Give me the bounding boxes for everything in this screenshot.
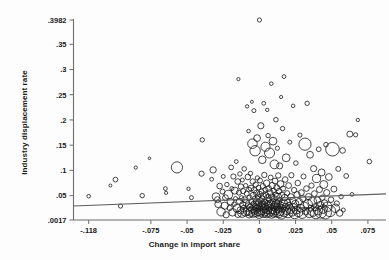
scatter-point [325, 174, 332, 181]
scatter-point [215, 201, 222, 208]
scatter-point [187, 187, 190, 190]
x-tick-label: -.118 [80, 226, 97, 235]
x-tick-label: -.05 [181, 226, 194, 235]
scatter-point [134, 166, 137, 169]
scatter-point [285, 191, 290, 196]
y-tick-label: .2 [60, 116, 66, 125]
scatter-point [248, 139, 258, 149]
scatter-point [258, 123, 264, 129]
scatter-point [316, 147, 321, 152]
scatter-point [328, 197, 334, 203]
scatter-point [354, 133, 358, 137]
y-axis-title: Industry displacement rate [20, 43, 29, 203]
scatter-point [336, 210, 343, 217]
scatter-point [200, 138, 204, 142]
x-tick-label: -.025 [215, 226, 232, 235]
scatter-point [305, 101, 309, 105]
scatter-point [282, 75, 286, 79]
scatter-point [291, 104, 295, 108]
scatter-point [238, 172, 242, 176]
scatter-point [286, 183, 292, 189]
y-tick-label: .25 [56, 91, 66, 100]
scatter-point [309, 183, 314, 188]
scatter-point [277, 163, 283, 169]
scatter-point [231, 174, 236, 179]
scatter-point [189, 196, 193, 200]
scatter-point [262, 101, 266, 105]
scatter-point [320, 181, 328, 189]
scatter-point [356, 118, 359, 121]
scatter-point [257, 178, 262, 183]
x-tick-label: .05 [327, 226, 337, 235]
x-tick-label: .025 [288, 226, 303, 235]
scatter-point [344, 174, 349, 179]
y-tick-label: .05 [56, 191, 66, 200]
scatter-point [229, 165, 234, 170]
scatter-point [340, 148, 346, 154]
scatter-point [247, 129, 251, 133]
scatter-point [282, 177, 288, 183]
scatter-point [311, 166, 317, 172]
scatter-point [217, 183, 223, 189]
scatter-point [301, 174, 306, 179]
scatter-point [210, 167, 216, 173]
y-tick-label: .3982 [48, 16, 67, 25]
scatter-point [294, 161, 299, 166]
scatter-point [269, 82, 273, 86]
scatter-point [240, 178, 244, 182]
scatter-points-group [87, 18, 372, 219]
scatter-point [334, 201, 339, 206]
scatter-point [250, 100, 253, 103]
scatter-point [311, 191, 317, 197]
scatter-point [266, 108, 269, 111]
scatter-point [307, 151, 314, 158]
scatter-point [217, 208, 225, 216]
scatter-point [304, 186, 310, 192]
y-tick-label: .35 [56, 40, 66, 49]
scatter-point [163, 187, 167, 191]
scatter-point [274, 117, 279, 122]
scatter-point [113, 177, 118, 182]
scatter-point [235, 179, 241, 185]
scatter-point [318, 169, 325, 176]
y-tick-label: .15 [56, 141, 66, 150]
y-tick-label: .1 [60, 166, 66, 175]
scatter-point [171, 162, 182, 173]
scatter-point [262, 172, 267, 177]
scatter-point [280, 95, 283, 98]
scatter-point [367, 159, 372, 164]
scatter-point [225, 182, 229, 186]
scatter-point [148, 157, 151, 160]
scatter-point [234, 160, 238, 164]
scatter-point [257, 18, 261, 22]
plot-canvas: .0017.05.1.15.2.25.3.35.3982-.118-.075-.… [0, 0, 389, 260]
y-tick-label: .3 [60, 65, 66, 74]
scatter-point [288, 140, 292, 144]
scatter-point [242, 167, 247, 172]
scatter-point [324, 190, 330, 196]
scatter-point [245, 105, 248, 108]
x-tick-label: 0 [257, 226, 261, 235]
x-tick-label: -.075 [142, 226, 159, 235]
scatter-point [331, 186, 337, 192]
scatter-point [275, 146, 279, 150]
scatter-point [210, 177, 214, 181]
scatter-point [347, 131, 353, 137]
scatter-point [259, 156, 267, 164]
scatter-point [241, 189, 246, 194]
scatter-point [250, 146, 260, 156]
scatter-point [140, 193, 144, 197]
y-tick-label: .0017 [48, 216, 67, 225]
scatter-point [280, 126, 284, 130]
scatter-point [164, 191, 167, 194]
scatter-point [221, 174, 225, 178]
scatter-point [341, 208, 345, 212]
scatter-point [336, 166, 341, 171]
scatter-point [244, 183, 248, 187]
scatter-plot-figure: .0017.05.1.15.2.25.3.35.3982-.118-.075-.… [0, 0, 389, 260]
scatter-point [270, 160, 279, 169]
x-axis-title: Change in import share [0, 240, 389, 249]
scatter-point [288, 194, 294, 200]
x-tick-label: .075 [361, 226, 376, 235]
scatter-point [282, 154, 290, 162]
